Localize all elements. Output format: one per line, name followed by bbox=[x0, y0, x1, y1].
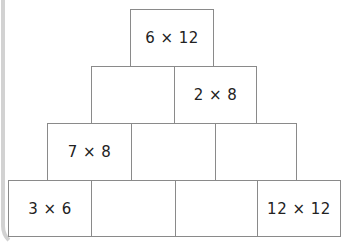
brick-text: 6 × 12 bbox=[145, 29, 199, 47]
brick-r3-c1: 7 × 8 bbox=[47, 123, 132, 181]
brick-r3-c3[interactable] bbox=[215, 123, 297, 181]
brick-r4-c1: 3 × 6 bbox=[8, 180, 92, 237]
brick-r4-c2[interactable] bbox=[91, 180, 176, 237]
brick-r2-c2: 2 × 8 bbox=[174, 66, 257, 124]
brick-text: 3 × 6 bbox=[28, 200, 72, 218]
brick-r2-c1[interactable] bbox=[91, 66, 175, 124]
brick-r4-c3[interactable] bbox=[175, 180, 258, 237]
brick-text: 2 × 8 bbox=[194, 86, 238, 104]
brick-r1-c1: 6 × 12 bbox=[130, 9, 214, 67]
brick-text: 12 × 12 bbox=[267, 200, 331, 218]
brick-text: 7 × 8 bbox=[68, 143, 112, 161]
brick-r3-c2[interactable] bbox=[131, 123, 216, 181]
brick-r4-c4: 12 × 12 bbox=[257, 180, 341, 237]
